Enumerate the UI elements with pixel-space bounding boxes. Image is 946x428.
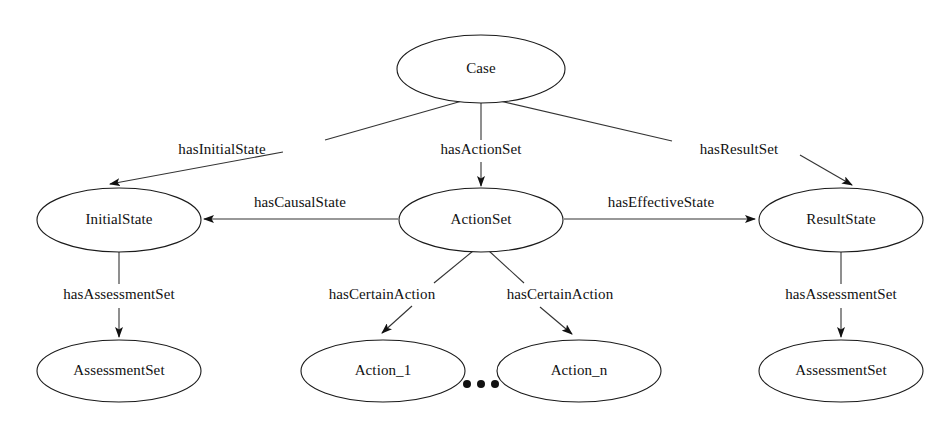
edge-label-has-assessment-set-right: hasAssessmentSet (785, 286, 897, 302)
edge-has-causal-state: hasCausalState (204, 194, 398, 219)
ellipsis-dot (491, 380, 499, 388)
node-case[interactable]: Case (397, 35, 565, 103)
node-assessment-set-left[interactable]: AssessmentSet (37, 340, 201, 402)
edge-has-assessment-set-left: hasAssessmentSet (63, 252, 175, 337)
edge-label-has-assessment-set-left: hasAssessmentSet (63, 286, 175, 302)
node-label-action-n: Action_n (551, 362, 608, 378)
edge-segment-arrow (800, 155, 852, 185)
edge-label-has-certain-action-1: hasCertainAction (329, 286, 436, 302)
node-layer: Case InitialState ActionSet ResultState … (37, 35, 923, 402)
edge-segment (434, 251, 473, 283)
node-label-action-set: ActionSet (451, 211, 513, 227)
node-action-1[interactable]: Action_1 (301, 340, 465, 402)
ellipsis-dot (463, 380, 471, 388)
ellipsis-dot (477, 380, 485, 388)
node-label-result-state: ResultState (806, 211, 876, 227)
node-action-n[interactable]: Action_n (497, 340, 661, 402)
edge-has-initial-state: hasInitialState (110, 101, 462, 184)
node-label-assessment-set-left: AssessmentSet (73, 362, 165, 378)
node-result-state[interactable]: ResultState (759, 188, 923, 252)
edge-segment-arrow (382, 306, 412, 333)
node-action-set[interactable]: ActionSet (399, 188, 563, 252)
edge-segment (500, 101, 672, 141)
node-initial-state[interactable]: InitialState (37, 188, 201, 252)
edge-label-has-initial-state: hasInitialState (178, 141, 266, 157)
edge-segment (489, 251, 524, 283)
node-assessment-set-right[interactable]: AssessmentSet (759, 340, 923, 402)
node-label-case: Case (466, 60, 496, 76)
edge-has-assessment-set-right: hasAssessmentSet (785, 252, 897, 337)
node-label-initial-state: InitialState (85, 211, 152, 227)
edge-has-certain-action-1: hasCertainAction (329, 251, 473, 333)
edge-label-has-effective-state: hasEffectiveState (608, 194, 715, 210)
node-label-action-1: Action_1 (355, 362, 412, 378)
edge-label-has-certain-action-n: hasCertainAction (507, 286, 614, 302)
ontology-diagram: hasInitialState hasActionSet hasResultSe… (0, 0, 946, 428)
diagram-canvas: hasInitialState hasActionSet hasResultSe… (0, 0, 946, 428)
ellipsis-indicator (463, 380, 499, 388)
edge-has-action-set: hasActionSet (440, 103, 522, 186)
edge-segment-arrow (540, 307, 572, 334)
edge-label-has-action-set: hasActionSet (440, 141, 522, 157)
edge-label-has-causal-state: hasCausalState (254, 194, 346, 210)
edge-has-effective-state: hasEffectiveState (564, 194, 755, 219)
edge-label-has-result-set: hasResultSet (700, 141, 779, 157)
node-label-assessment-set-right: AssessmentSet (795, 362, 887, 378)
edge-has-certain-action-n: hasCertainAction (489, 251, 614, 334)
edge-segment (325, 101, 462, 140)
edge-has-result-set: hasResultSet (500, 101, 852, 185)
